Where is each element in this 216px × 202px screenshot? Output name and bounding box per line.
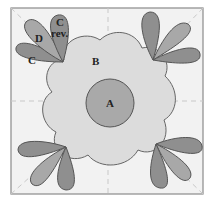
label-d: D [35,32,43,44]
label-a: A [106,97,114,109]
quilt-block-diagram: D C rev. C B A [0,0,216,202]
label-c-rev-2: rev. [51,27,68,39]
label-b: B [92,55,100,67]
label-c: C [28,54,36,66]
